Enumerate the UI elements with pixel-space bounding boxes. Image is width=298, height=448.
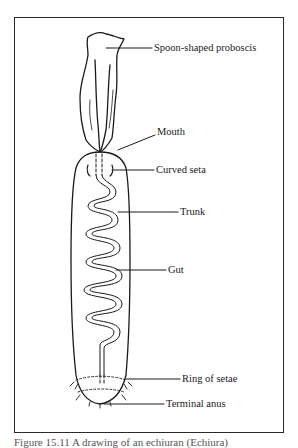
label-proboscis: Spoon-shaped proboscis (154, 43, 256, 54)
label-trunk: Trunk (180, 207, 205, 218)
label-mouth: Mouth (157, 127, 185, 138)
label-curved-seta: Curved seta (156, 165, 206, 176)
curved-setae-drawing (87, 165, 113, 176)
label-gut: Gut (168, 265, 184, 276)
label-terminal-anus: Terminal anus (166, 399, 226, 410)
figure-caption: Figure 15.11 A drawing of an echiuran (E… (14, 437, 228, 448)
proboscis-drawing (80, 33, 124, 152)
label-ring-of-setae: Ring of setae (182, 374, 237, 385)
